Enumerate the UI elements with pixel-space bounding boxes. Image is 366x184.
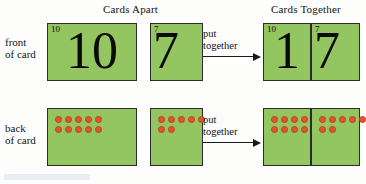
dot-icon: [301, 126, 308, 133]
put-together-top-line1: put: [203, 28, 237, 40]
card-back-seven-apart: [150, 108, 203, 166]
dot-icon: [271, 116, 278, 123]
row-label-back-line1: back: [5, 122, 36, 134]
dot-group-seven-apart: [158, 116, 205, 133]
dot-icon: [291, 116, 298, 123]
dot-icon: [359, 116, 366, 123]
dot-group-seven-together: [319, 116, 366, 133]
arrow-shaft: [203, 142, 255, 143]
dot-icon: [55, 126, 62, 133]
dot-icon: [291, 126, 298, 133]
dot-icon: [65, 116, 72, 123]
row-label-front-line1: front: [5, 36, 36, 48]
row-label-front-line2: of card: [5, 48, 36, 60]
heading-cards-together: Cards Together: [271, 3, 341, 15]
dot-icon: [95, 116, 102, 123]
card-numeral-ten: 10: [48, 25, 136, 77]
dot-icon: [95, 126, 102, 133]
put-together-label-bottom: put together: [203, 114, 237, 138]
dot-icon: [85, 126, 92, 133]
card-numeral-seven: 7: [151, 25, 202, 77]
card-numeral-seven-together: 7: [312, 25, 359, 77]
card-front-seven-together: 7 7: [311, 23, 360, 81]
put-together-label-top: put together: [203, 28, 237, 52]
dot-icon: [339, 116, 346, 123]
arrow-shaft: [203, 56, 255, 57]
dot-row: [158, 126, 205, 133]
row-label-back-of-card: back of card: [5, 122, 36, 146]
dot-icon: [188, 116, 195, 123]
card-front-ten-together: 10 1: [263, 23, 311, 81]
card-back-ten-together: [263, 108, 311, 166]
dot-row: [319, 126, 366, 133]
dot-icon: [319, 116, 326, 123]
put-together-bottom-line2: together: [203, 126, 237, 138]
dot-icon: [271, 126, 278, 133]
dot-row: [319, 116, 366, 123]
dot-icon: [301, 116, 308, 123]
dot-icon: [158, 126, 165, 133]
dot-icon: [329, 126, 336, 133]
card-back-ten-apart: [47, 108, 137, 166]
dot-row: [55, 116, 102, 123]
dot-icon: [281, 126, 288, 133]
dot-row: [55, 126, 102, 133]
footer-band: [4, 174, 90, 180]
arrow-head: [253, 139, 261, 147]
card-numeral-one-together: 1: [264, 25, 310, 77]
dot-icon: [349, 116, 356, 123]
card-front-seven-apart: 7 7: [150, 23, 203, 81]
dot-icon: [168, 116, 175, 123]
put-together-top-line2: together: [203, 40, 237, 52]
arrow-right-icon-top: [203, 52, 261, 61]
dot-group-ten-apart: [55, 116, 102, 133]
dot-icon: [158, 116, 165, 123]
dot-row: [158, 116, 205, 123]
arrow-right-icon-bottom: [203, 138, 261, 147]
heading-cards-apart: Cards Apart: [103, 3, 158, 15]
arrow-head: [253, 53, 261, 61]
card-front-ten-apart: 10 10: [47, 23, 137, 81]
dot-icon: [75, 116, 82, 123]
dot-icon: [329, 116, 336, 123]
row-label-back-line2: of card: [5, 134, 36, 146]
dot-icon: [178, 116, 185, 123]
dot-icon: [65, 126, 72, 133]
put-together-bottom-line1: put: [203, 114, 237, 126]
dot-icon: [85, 116, 92, 123]
dot-icon: [281, 116, 288, 123]
card-back-seven-together: [311, 108, 360, 166]
row-label-front-of-card: front of card: [5, 36, 36, 60]
dot-icon: [168, 126, 175, 133]
dot-icon: [55, 116, 62, 123]
dot-icon: [319, 126, 326, 133]
dot-icon: [75, 126, 82, 133]
